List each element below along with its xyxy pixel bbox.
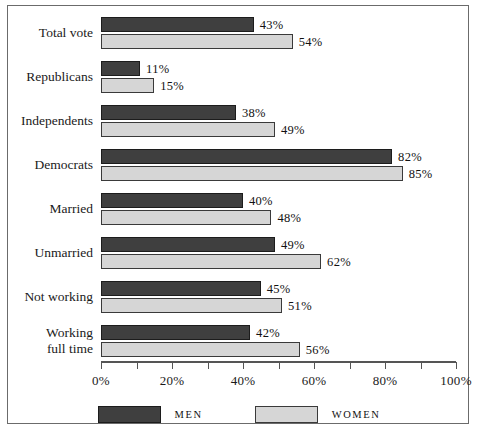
axis-tick-label: 40% [231,373,256,389]
bar-men[interactable] [101,193,243,208]
x-axis: 0%20%40%60%80%100% [101,361,463,362]
bar-value-label: 38% [242,105,266,120]
axis-tick [243,362,244,369]
bar-value-label: 49% [281,122,305,137]
bar-value-label: 54% [299,34,323,49]
bar-row: 48% [101,210,463,225]
bar-value-label: 49% [281,237,305,252]
bar-row: 56% [101,342,463,357]
bar-women[interactable] [101,254,321,269]
bar-group: Not working45%51% [8,278,470,316]
chart-frame: Total vote43%54%Republicans11%15%Indepen… [7,5,469,424]
bar-value-label: 40% [249,193,273,208]
bar-group: Working full time42%56% [8,322,470,360]
legend-swatch-women [255,406,318,423]
category-label: Independents [8,102,93,140]
bar-men[interactable] [101,281,261,296]
bar-row: 42% [101,325,463,340]
bar-row: 82% [101,149,463,164]
bar-row: 51% [101,298,463,313]
bar-women[interactable] [101,78,154,93]
axis-tick-label: 0% [92,373,110,389]
bar-row: 49% [101,122,463,137]
category-label: Unmarried [8,234,93,272]
bar-value-label: 48% [277,210,301,225]
bar-row: 43% [101,17,463,32]
bar-value-label: 51% [288,298,312,313]
bar-value-label: 45% [267,281,291,296]
category-label: Working full time [8,322,93,360]
bar-women[interactable] [101,210,271,225]
bar-men[interactable] [101,149,392,164]
axis-tick [137,362,138,369]
axis-tick [385,362,386,369]
axis-tick [208,362,209,369]
bar-row: 54% [101,34,463,49]
axis-tick [314,362,315,369]
bar-row: 15% [101,78,463,93]
category-label: Republicans [8,58,93,96]
bar-row: 38% [101,105,463,120]
bar-men[interactable] [101,17,254,32]
axis-tick-label: 20% [160,373,185,389]
legend-swatch-men [98,406,161,423]
bar-value-label: 42% [256,325,280,340]
bar-value-label: 43% [260,17,284,32]
legend-label: MEN [175,409,203,420]
bar-row: 62% [101,254,463,269]
chart-legend: MENWOMEN [8,402,470,426]
bar-group: Democrats82%85% [8,146,470,184]
bar-row: 85% [101,166,463,181]
category-label: Democrats [8,146,93,184]
bar-row: 11% [101,61,463,76]
bar-group: Unmarried49%62% [8,234,470,272]
bar-value-label: 85% [409,166,433,181]
bar-women[interactable] [101,342,300,357]
bar-men[interactable] [101,105,236,120]
axis-tick [172,362,173,369]
axis-tick [456,362,457,369]
axis-tick-label: 60% [302,373,327,389]
bar-row: 49% [101,237,463,252]
bar-group: Married40%48% [8,190,470,228]
category-label: Total vote [8,14,93,52]
bar-group: Total vote43%54% [8,14,470,52]
axis-tick [421,362,422,369]
bar-men[interactable] [101,237,275,252]
bar-men[interactable] [101,61,140,76]
bar-value-label: 62% [327,254,351,269]
legend-label: WOMEN [332,409,381,420]
bar-value-label: 11% [146,61,169,76]
axis-tick [350,362,351,369]
axis-tick [279,362,280,369]
bar-men[interactable] [101,325,250,340]
bar-row: 40% [101,193,463,208]
category-label: Married [8,190,93,228]
legend-entry-men[interactable]: MEN [98,406,203,423]
bar-group: Independents38%49% [8,102,470,140]
bar-women[interactable] [101,34,293,49]
axis-tick-label: 80% [373,373,398,389]
bar-women[interactable] [101,166,403,181]
bar-value-label: 15% [160,78,184,93]
bar-value-label: 82% [398,149,422,164]
bar-women[interactable] [101,122,275,137]
axis-tick [101,362,102,369]
plot-area: Total vote43%54%Republicans11%15%Indepen… [8,6,470,356]
bar-value-label: 56% [306,342,330,357]
legend-entry-women[interactable]: WOMEN [255,406,381,423]
bar-row: 45% [101,281,463,296]
axis-tick-label: 100% [440,373,472,389]
bar-women[interactable] [101,298,282,313]
category-label: Not working [8,278,93,316]
bar-group: Republicans11%15% [8,58,470,96]
